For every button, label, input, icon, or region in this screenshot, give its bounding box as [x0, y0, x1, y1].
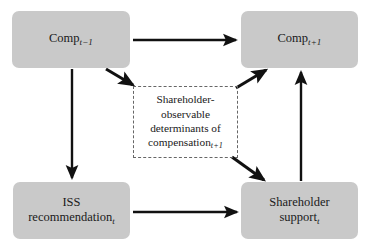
node-comp-t-plus-1-label: Compt+1	[274, 31, 326, 47]
diagram-canvas: Compt−1 Compt+1 ISSrecommendationt Share…	[0, 0, 375, 251]
node-iss-recommendation-t-label: ISSrecommendationt	[24, 195, 119, 227]
node-shareholder-support-t-subscript: t	[317, 215, 320, 225]
arrow-determinants-to-comp-next	[236, 70, 266, 88]
node-iss-recommendation-t-line1: ISS	[62, 195, 80, 209]
node-shareholder-support-t-line1: Shareholder	[269, 195, 329, 209]
node-shareholder-support-t-label: Shareholdersupportt	[265, 195, 333, 227]
node-determinants-line2: observable	[161, 108, 210, 120]
node-determinants-label: Shareholder-observabledeterminants ofcom…	[144, 92, 227, 151]
node-determinants-line3: determinants of	[150, 122, 221, 134]
node-shareholder-observable-determinants[interactable]: Shareholder-observabledeterminants ofcom…	[133, 86, 238, 158]
node-determinants-line1: Shareholder-	[156, 93, 214, 105]
node-comp-t-plus-1-base: Comp	[278, 31, 309, 45]
arrow-determinants-to-shareholder-support	[232, 157, 264, 180]
node-iss-recommendation-t-subscript: t	[112, 215, 115, 225]
arrow-comp-prev-to-determinants	[106, 69, 133, 85]
node-determinants-base: compensation	[148, 136, 211, 148]
node-determinants-subscript: t+1	[211, 141, 223, 150]
node-comp-t-minus-1-label: Compt−1	[45, 31, 97, 47]
node-shareholder-support-t-base: support	[279, 210, 317, 224]
node-comp-t-minus-1-base: Comp	[49, 31, 80, 45]
node-comp-t-minus-1[interactable]: Compt−1	[12, 11, 130, 68]
node-comp-t-plus-1[interactable]: Compt+1	[241, 11, 358, 68]
node-comp-t-plus-1-subscript: t+1	[308, 37, 321, 47]
node-iss-recommendation-t-base: recommendation	[28, 210, 112, 224]
node-shareholder-support-t[interactable]: Shareholdersupportt	[241, 182, 358, 239]
node-iss-recommendation-t[interactable]: ISSrecommendationt	[13, 182, 130, 239]
node-comp-t-minus-1-subscript: t−1	[80, 37, 93, 47]
